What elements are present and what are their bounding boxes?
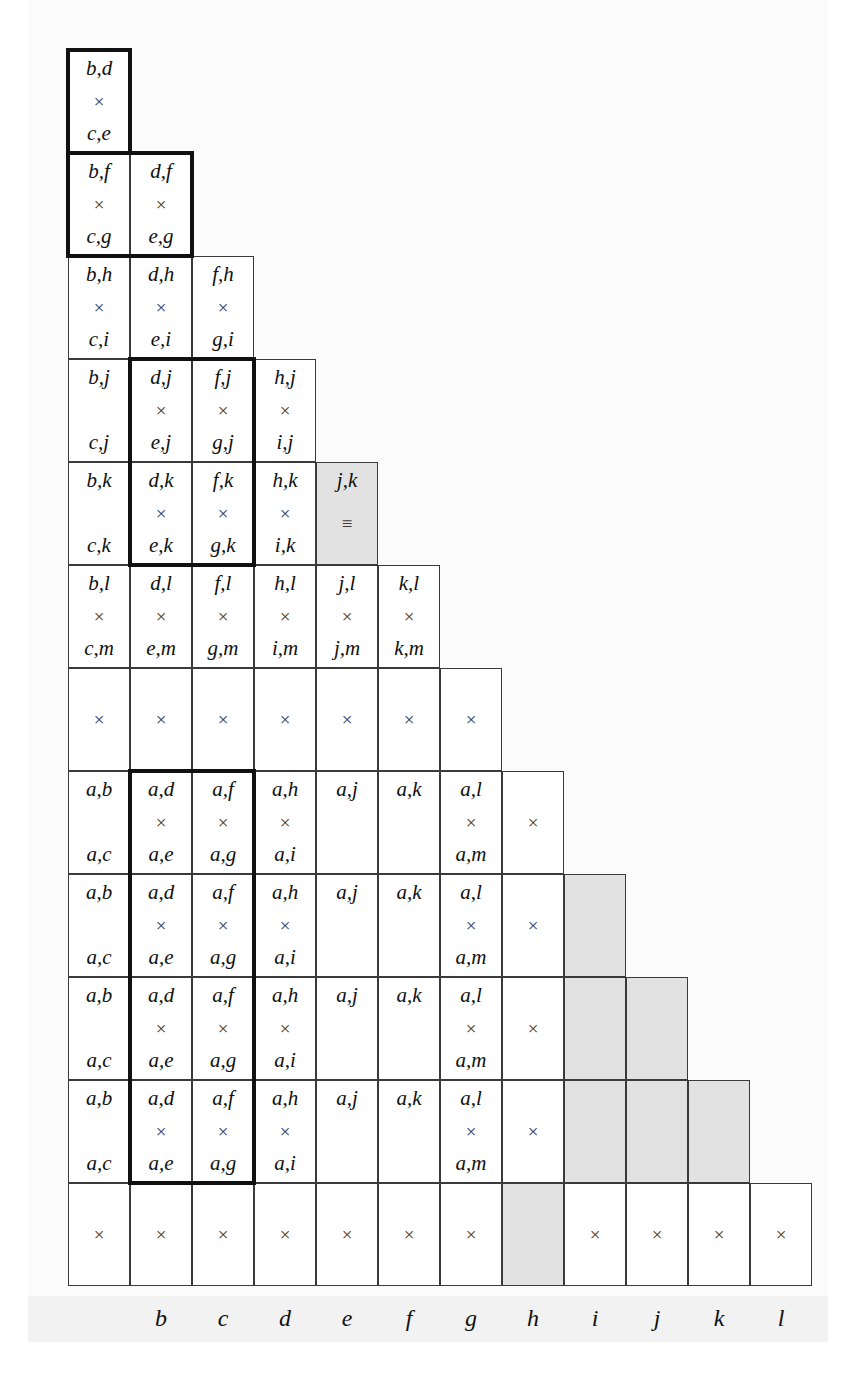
cell-mark: × bbox=[379, 710, 439, 729]
cell-top-pair: a,j bbox=[317, 1088, 377, 1109]
cell-mark: × bbox=[193, 916, 253, 935]
cell-top-pair: h,l bbox=[255, 573, 315, 594]
cell-bottom-pair: c,m bbox=[69, 638, 129, 659]
matrix-cell: h,l×i,m bbox=[254, 565, 316, 668]
cell-top-pair: a,f bbox=[193, 1088, 253, 1109]
cell-mark: × bbox=[69, 92, 129, 111]
matrix-cell: f,h×g,i bbox=[192, 256, 254, 359]
axis-label-j: j bbox=[637, 1300, 677, 1336]
cell-bottom-pair: g,j bbox=[193, 432, 253, 453]
cell-bottom-pair: a,e bbox=[131, 844, 191, 865]
matrix-cell: a,ba,c bbox=[68, 771, 130, 874]
matrix-cell: × bbox=[502, 874, 564, 977]
cell-bottom-pair: k,m bbox=[379, 638, 439, 659]
matrix-cell: a,f×a,g bbox=[192, 977, 254, 1080]
cell-mark: × bbox=[193, 1122, 253, 1141]
cell-top-pair: a,l bbox=[441, 1088, 501, 1109]
matrix-cell: b,d×c,e bbox=[68, 50, 130, 153]
cell-top-pair: a,f bbox=[193, 882, 253, 903]
column-axis-band: bcdefghijkl bbox=[28, 1296, 828, 1342]
matrix-cell: a,f×a,g bbox=[192, 1080, 254, 1183]
cell-top-pair: a,h bbox=[255, 882, 315, 903]
cell-bottom-pair: i,m bbox=[255, 638, 315, 659]
cell-mark: × bbox=[69, 298, 129, 317]
matrix-cell: a,j bbox=[316, 874, 378, 977]
cell-bottom-pair: e,i bbox=[131, 329, 191, 350]
matrix-cell: × bbox=[626, 1183, 688, 1286]
cell-bottom-pair: g,m bbox=[193, 638, 253, 659]
axis-label-l: l bbox=[761, 1300, 801, 1336]
cell-mark: × bbox=[503, 1122, 563, 1141]
cell-bottom-pair: c,e bbox=[69, 123, 129, 144]
matrix-cell: a,h×a,i bbox=[254, 771, 316, 874]
cell-bottom-pair: e,g bbox=[131, 226, 191, 247]
cell-bottom-pair: a,e bbox=[131, 947, 191, 968]
cell-mark: × bbox=[255, 1225, 315, 1244]
matrix-cell: a,ba,c bbox=[68, 1080, 130, 1183]
cell-top-pair: b,f bbox=[69, 161, 129, 182]
cell-top-pair: a,k bbox=[379, 1088, 439, 1109]
matrix-cell: a,d×a,e bbox=[130, 874, 192, 977]
matrix-cell: h,j×i,j bbox=[254, 359, 316, 462]
matrix-cell: a,l×a,m bbox=[440, 874, 502, 977]
cell-top-pair: a,l bbox=[441, 779, 501, 800]
cell-mark: × bbox=[69, 710, 129, 729]
cell-top-pair: a,k bbox=[379, 985, 439, 1006]
cell-mark: × bbox=[69, 1225, 129, 1244]
axis-label-f: f bbox=[389, 1300, 429, 1336]
matrix-cell: a,k bbox=[378, 771, 440, 874]
cell-mark: × bbox=[131, 298, 191, 317]
matrix-cell: × bbox=[316, 668, 378, 771]
axis-label-g: g bbox=[451, 1300, 491, 1336]
cell-top-pair: a,f bbox=[193, 985, 253, 1006]
matrix-cell: a,f×a,g bbox=[192, 874, 254, 977]
cell-top-pair: d,k bbox=[131, 470, 191, 491]
matrix-cell: d,j×e,j bbox=[130, 359, 192, 462]
matrix-cell: × bbox=[440, 668, 502, 771]
cell-bottom-pair: a,c bbox=[69, 947, 129, 968]
axis-label-k: k bbox=[699, 1300, 739, 1336]
cell-mark: × bbox=[131, 195, 191, 214]
cell-top-pair: a,l bbox=[441, 882, 501, 903]
matrix-cell: × bbox=[502, 1080, 564, 1183]
cell-mark: ≡ bbox=[317, 514, 377, 533]
cell-top-pair: a,b bbox=[69, 882, 129, 903]
cell-bottom-pair: a,m bbox=[441, 1153, 501, 1174]
cell-mark: × bbox=[255, 710, 315, 729]
matrix-cell: × bbox=[378, 1183, 440, 1286]
cell-mark: × bbox=[441, 813, 501, 832]
matrix-cell: d,l×e,m bbox=[130, 565, 192, 668]
matrix-cell: k,l×k,m bbox=[378, 565, 440, 668]
matrix-cell: b,h×c,i bbox=[68, 256, 130, 359]
matrix-cell: b,jc,j bbox=[68, 359, 130, 462]
matrix-cell bbox=[626, 977, 688, 1080]
cell-top-pair: b,d bbox=[69, 58, 129, 79]
matrix-cell: × bbox=[316, 1183, 378, 1286]
matrix-cell: × bbox=[378, 668, 440, 771]
cell-mark: × bbox=[131, 504, 191, 523]
cell-top-pair: f,l bbox=[193, 573, 253, 594]
cell-bottom-pair: c,i bbox=[69, 329, 129, 350]
cell-bottom-pair: g,i bbox=[193, 329, 253, 350]
cell-mark: × bbox=[131, 1122, 191, 1141]
matrix-cell: × bbox=[130, 668, 192, 771]
cell-top-pair: a,j bbox=[317, 882, 377, 903]
cell-mark: × bbox=[131, 607, 191, 626]
cell-bottom-pair: g,k bbox=[193, 535, 253, 556]
cell-bottom-pair: a,c bbox=[69, 1153, 129, 1174]
cell-mark: × bbox=[131, 1019, 191, 1038]
cell-bottom-pair: a,i bbox=[255, 947, 315, 968]
cell-mark: × bbox=[131, 1225, 191, 1244]
matrix-cell: × bbox=[440, 1183, 502, 1286]
matrix-cell: × bbox=[688, 1183, 750, 1286]
matrix-cell: b,f×c,g bbox=[68, 153, 130, 256]
cell-bottom-pair: e,m bbox=[131, 638, 191, 659]
cell-top-pair: f,h bbox=[193, 264, 253, 285]
cell-mark: × bbox=[131, 401, 191, 420]
cell-top-pair: a,k bbox=[379, 779, 439, 800]
cell-bottom-pair: a,g bbox=[193, 947, 253, 968]
cell-bottom-pair: a,i bbox=[255, 1050, 315, 1071]
cell-mark: × bbox=[255, 401, 315, 420]
matrix-cell: × bbox=[192, 668, 254, 771]
matrix-cell: a,f×a,g bbox=[192, 771, 254, 874]
